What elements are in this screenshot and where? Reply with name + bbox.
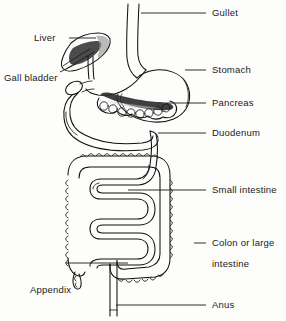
label-colon-line-1: Colon or large bbox=[212, 238, 274, 248]
gullet-organ bbox=[127, 4, 146, 78]
pancreas-organ bbox=[97, 93, 176, 120]
label-colon-line-2: intestine bbox=[212, 259, 249, 269]
digestive-system-diagram: Gullet Liver Stomach Gall bladder Pancre… bbox=[0, 0, 286, 321]
label-appendix: Appendix bbox=[30, 285, 71, 295]
label-pancreas: Pancreas bbox=[212, 98, 254, 108]
appendix-organ bbox=[73, 272, 81, 289]
anatomy-illustration bbox=[0, 0, 286, 321]
rectum-anus-organ bbox=[110, 262, 117, 316]
label-liver: Liver bbox=[34, 33, 56, 43]
label-small-intestine: Small intestine bbox=[212, 185, 277, 195]
colon-haustra-left bbox=[66, 180, 69, 266]
label-stomach: Stomach bbox=[212, 65, 251, 75]
liver-organ bbox=[61, 33, 110, 71]
label-anus: Anus bbox=[212, 300, 234, 310]
small-intestine-organ bbox=[90, 131, 158, 268]
label-gall-bladder: Gall bladder bbox=[4, 73, 58, 83]
label-gullet: Gullet bbox=[212, 8, 238, 18]
label-duodenum: Duodenum bbox=[212, 128, 260, 138]
